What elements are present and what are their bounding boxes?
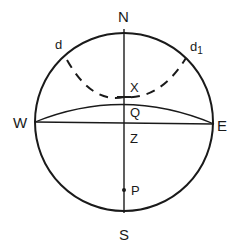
point-p: [122, 188, 126, 192]
celestial-diagram: N S W E d d1 X Q Z P: [0, 0, 242, 245]
diurnal-dashed-curve: [67, 58, 186, 98]
label-south: S: [119, 226, 129, 243]
label-north: N: [118, 8, 129, 25]
label-d1-main: d: [190, 39, 197, 54]
label-d: d: [55, 37, 62, 52]
label-p: P: [131, 183, 140, 198]
label-d1-subscript: 1: [197, 45, 203, 56]
diagram-svg: N S W E d d1 X Q Z P: [0, 0, 242, 245]
horizon-line: [35, 122, 214, 124]
label-z: Z: [130, 131, 138, 146]
label-west: W: [13, 114, 28, 131]
label-q: Q: [130, 105, 140, 120]
label-east: E: [217, 117, 227, 134]
label-d1: d1: [190, 39, 203, 56]
label-x: X: [130, 80, 139, 95]
